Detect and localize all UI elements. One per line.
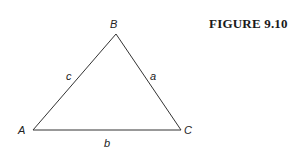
side-label-c: c: [66, 70, 72, 82]
vertex-label-a: A: [17, 124, 25, 136]
triangle-abc: [33, 34, 181, 130]
figure-caption: FIGURE 9.10: [209, 16, 288, 32]
side-label-a: a: [150, 70, 156, 82]
vertex-label-b: B: [110, 18, 117, 30]
side-label-b: b: [104, 137, 110, 149]
vertex-label-c: C: [184, 124, 192, 136]
